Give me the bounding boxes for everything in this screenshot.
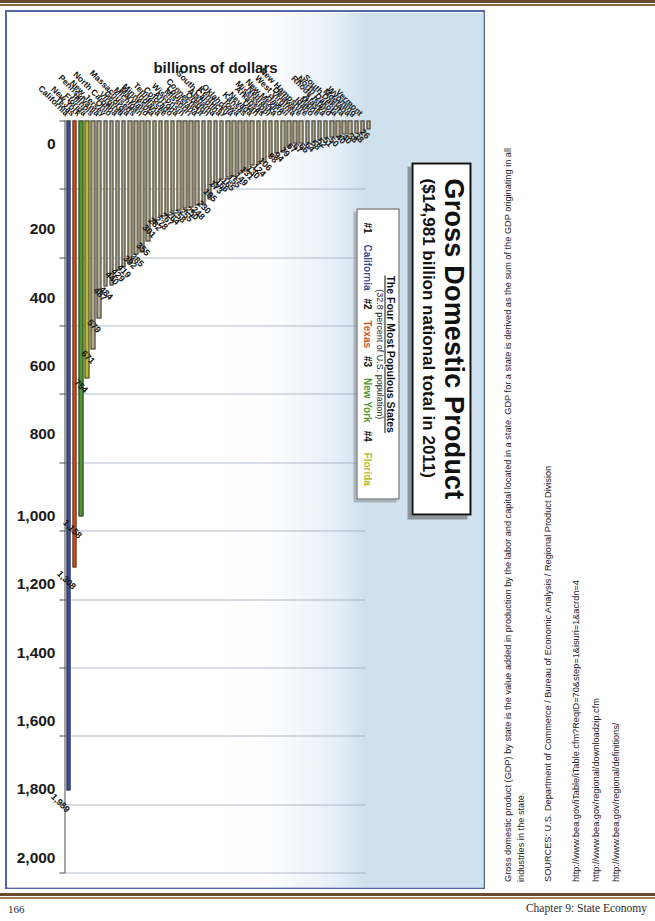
bar-row: 124 (262, 120, 267, 872)
legend-state-name: Florida (361, 452, 372, 485)
axis-tick (59, 462, 65, 463)
axis-tick (59, 530, 65, 531)
legend-state-name: New York (361, 377, 372, 422)
axis-tick-label: 0 (46, 135, 55, 153)
bar-row: 248 (201, 120, 206, 872)
bar-row: 94 (280, 120, 285, 872)
bar (225, 120, 230, 177)
bar-row: 166 (225, 120, 230, 872)
bar-row: 165 (231, 120, 236, 872)
bar-row: 52 (323, 120, 328, 872)
bar-row: 1,308 (72, 120, 77, 872)
notes-column: Gross domestic product (GDP) by state is… (492, 14, 652, 888)
value-axis-line (64, 120, 65, 872)
axis-tick (59, 325, 65, 326)
bar (188, 120, 193, 207)
legend-rank: #1 (361, 222, 372, 236)
bar-row: 131 (249, 120, 254, 872)
bar-row: 51 (329, 120, 334, 872)
legend-rank: #4 (361, 430, 372, 444)
bar (84, 120, 89, 378)
legend-subheading: (32.8 percent of U.S. population) (374, 218, 384, 489)
bar (121, 120, 126, 267)
bar-row: 67 (292, 120, 297, 872)
bar (305, 120, 310, 143)
bar (249, 120, 254, 165)
legend-rank: #2 (361, 298, 372, 312)
axis-tick (59, 735, 65, 736)
axis-tick-label: 2,000 (16, 848, 55, 866)
bar (109, 120, 114, 285)
bottom-rule-secondary (0, 897, 655, 899)
bar (182, 120, 187, 208)
bar-row: 155 (237, 120, 242, 872)
bar-row: 195 (213, 120, 218, 872)
sources-note: SOURCES: U.S. Department of Commerce / B… (542, 466, 554, 882)
bar-row: 67 (298, 120, 303, 872)
bar-row: 40 (347, 120, 352, 872)
axis-tick (59, 872, 65, 873)
chart-title: Gross Domestic Product (438, 178, 466, 499)
bar (292, 120, 297, 143)
legend-entry-row: #1 California#2 Texas#3 New York#4 Flori… (361, 218, 372, 489)
bar-row: 754 (84, 120, 89, 872)
axis-tick (59, 393, 65, 394)
legend-rank: #3 (361, 356, 372, 370)
axis-tick-label: 400 (29, 289, 55, 307)
source-url-itable[interactable]: http://www.bea.gov/iTable/iTable.cfm?Req… (570, 580, 582, 882)
bar (176, 120, 181, 210)
bar-row: 429 (121, 120, 126, 872)
chart-title-box: Gross Domestic Product ($14,981 billion … (411, 162, 471, 515)
bar (164, 120, 169, 215)
bar-row: 58 (317, 120, 322, 872)
bar (152, 120, 157, 223)
bar (72, 120, 77, 567)
source-url-definitions[interactable]: http://www.bea.gov/regional/definitions/ (610, 723, 622, 882)
bar-row: 250 (194, 120, 199, 872)
bar-row: 392 (133, 120, 138, 872)
axis-tick (59, 120, 65, 121)
bar (158, 120, 163, 216)
chart-subtitle: ($14,981 billion national total in 2011) (418, 178, 437, 499)
bar (213, 120, 218, 187)
bar (231, 120, 236, 176)
bar-row: 301 (152, 120, 157, 872)
definition-line-2: industries in the state. (515, 30, 528, 882)
bar (78, 120, 83, 516)
bar (219, 120, 224, 179)
bar-row: 79 (286, 120, 291, 872)
axis-tick (59, 257, 65, 258)
chart-stage: 1,959California1,308Texas1,158New York75… (7, 12, 483, 887)
definition-line-1: Gross domestic product (GDP) by state is… (502, 30, 515, 882)
axis-tick (59, 667, 65, 668)
bar-row: 278 (164, 120, 169, 872)
bar (66, 120, 71, 790)
definition-note: Gross domestic product (GDP) by state is… (502, 30, 529, 882)
bar-row: 98 (274, 120, 279, 872)
axis-tick (59, 599, 65, 600)
bar-row: 267 (170, 120, 175, 872)
legend-box: The Four Most Populous States (32.8 perc… (356, 208, 399, 499)
bar (341, 120, 346, 134)
bar-row: 579 (96, 120, 101, 872)
axis-tick-label: 600 (29, 357, 55, 375)
axis-tick-label: 1,600 (16, 712, 55, 730)
bar-row: 40 (341, 120, 346, 872)
bar-row: 1,158 (78, 120, 83, 872)
bar (90, 120, 95, 349)
bar (237, 120, 242, 173)
bar-row: 66 (305, 120, 310, 872)
legend-state-name: California (361, 244, 372, 290)
axis-title: billions of dollars (65, 58, 365, 75)
source-url-downloadzip[interactable]: http://www.bea.gov/regional/downloadzip.… (590, 698, 602, 882)
axis-tick-label: 200 (29, 220, 55, 238)
page: 1,959California1,308Texas1,158New York75… (0, 0, 655, 921)
bar-row: 130 (256, 120, 261, 872)
bar (243, 120, 248, 171)
chapter-footer: Chapter 9: State Economy (526, 902, 647, 914)
bar-row: 487 (103, 120, 108, 872)
bar (194, 120, 199, 205)
bar-row: 230 (207, 120, 212, 872)
bar-row: 671 (90, 120, 95, 872)
top-rule-primary (0, 0, 655, 3)
